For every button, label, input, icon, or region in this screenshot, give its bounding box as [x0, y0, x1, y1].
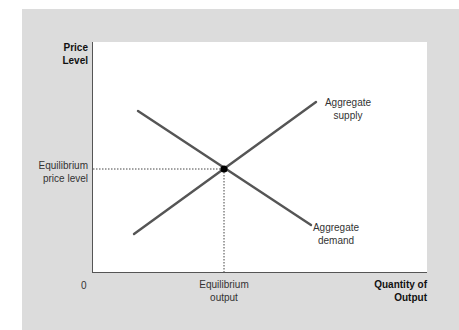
y-axis-label-line2: Level — [40, 54, 88, 67]
x-axis-label-line2: Output — [350, 291, 427, 304]
as-label-line2: supply — [315, 109, 381, 122]
ad-label-line1: Aggregate — [303, 221, 369, 234]
aggregate-demand-label: Aggregate demand — [303, 221, 369, 247]
ad-label-line2: demand — [303, 234, 369, 247]
x-axis-label-line1: Quantity of — [350, 278, 427, 291]
origin-label: 0 — [81, 279, 87, 292]
equilibrium-output-label: Equilibrium output — [184, 278, 264, 304]
aggregate-supply-label: Aggregate supply — [315, 96, 381, 122]
eq-price-line2: price level — [20, 172, 88, 185]
as-label-line1: Aggregate — [315, 96, 381, 109]
eq-price-line1: Equilibrium — [20, 159, 88, 172]
eq-output-line2: output — [184, 291, 264, 304]
y-axis-label-line1: Price — [40, 41, 88, 54]
x-axis-label: Quantity of Output — [350, 278, 427, 304]
equilibrium-point — [220, 165, 227, 172]
equilibrium-price-label: Equilibrium price level — [20, 159, 88, 185]
y-axis-label: Price Level — [40, 41, 88, 67]
eq-output-line1: Equilibrium — [184, 278, 264, 291]
